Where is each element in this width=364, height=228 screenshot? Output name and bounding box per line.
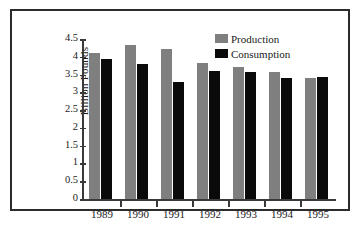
y-tick-label: 2.5 — [65, 103, 78, 114]
bar-group — [233, 39, 256, 199]
bar-consumption-1992 — [209, 71, 220, 199]
bar-production-1991 — [161, 49, 172, 199]
bar-group — [125, 39, 148, 199]
plot-area: Billion Pounds 00.511.522.533.544.5 1989… — [60, 29, 338, 201]
y-tick: 0 — [36, 199, 86, 200]
y-tick-label: 3.5 — [65, 68, 78, 79]
y-tick: 1.5 — [36, 146, 86, 147]
bar-production-1989 — [89, 53, 100, 199]
y-tick: 3 — [36, 92, 86, 93]
bar-production-1990 — [125, 45, 136, 199]
y-tick-label: 0 — [73, 192, 78, 203]
x-tick-mark — [228, 201, 230, 207]
bar-consumption-1991 — [173, 82, 184, 199]
y-tick: 3.5 — [36, 75, 86, 76]
legend-label-production: Production — [231, 33, 279, 45]
x-tick-mark — [120, 201, 122, 207]
y-tick-mark — [80, 199, 86, 201]
y-tick-label: 4 — [73, 50, 78, 61]
bar-group — [197, 39, 220, 199]
bar-group — [305, 39, 328, 199]
y-tick: 0.5 — [36, 181, 86, 182]
chart-figure: Billion Pounds 00.511.522.533.544.5 1989… — [10, 9, 350, 211]
y-tick: 4 — [36, 57, 86, 58]
y-tick-label: 3 — [73, 85, 78, 96]
x-tick-mark — [300, 201, 302, 207]
bar-production-1993 — [233, 67, 244, 199]
y-tick-label: 0.5 — [65, 174, 78, 185]
bar-group — [89, 39, 112, 199]
legend-label-consumption: Consumption — [231, 48, 290, 60]
bar-series-container — [84, 39, 336, 199]
bar-consumption-1989 — [101, 59, 112, 199]
y-tick: 2 — [36, 128, 86, 129]
chart-legend: Production Consumption — [215, 31, 290, 61]
y-tick-label: 4.5 — [65, 32, 78, 43]
y-tick: 2.5 — [36, 110, 86, 111]
bar-group — [161, 39, 184, 199]
y-tick-label: 1.5 — [65, 139, 78, 150]
y-tick-label: 2 — [73, 121, 78, 132]
x-tick-mark — [192, 201, 194, 207]
y-tick: 1 — [36, 163, 86, 164]
bar-consumption-1995 — [317, 77, 328, 199]
y-tick: 4.5 — [36, 39, 86, 40]
bar-consumption-1994 — [281, 78, 292, 199]
bar-production-1994 — [269, 72, 280, 199]
bar-consumption-1990 — [137, 64, 148, 199]
legend-item-production: Production — [215, 31, 290, 46]
x-tick-mark — [156, 201, 158, 207]
bar-production-1995 — [305, 78, 316, 199]
legend-swatch-consumption-icon — [215, 49, 228, 58]
x-tick-label: 1995 — [295, 208, 341, 220]
bar-group — [269, 39, 292, 199]
legend-swatch-production-icon — [215, 34, 228, 43]
legend-item-consumption: Consumption — [215, 46, 290, 61]
x-tick-mark — [264, 201, 266, 207]
y-tick-label: 1 — [73, 156, 78, 167]
bar-consumption-1993 — [245, 72, 256, 199]
bar-production-1992 — [197, 63, 208, 199]
